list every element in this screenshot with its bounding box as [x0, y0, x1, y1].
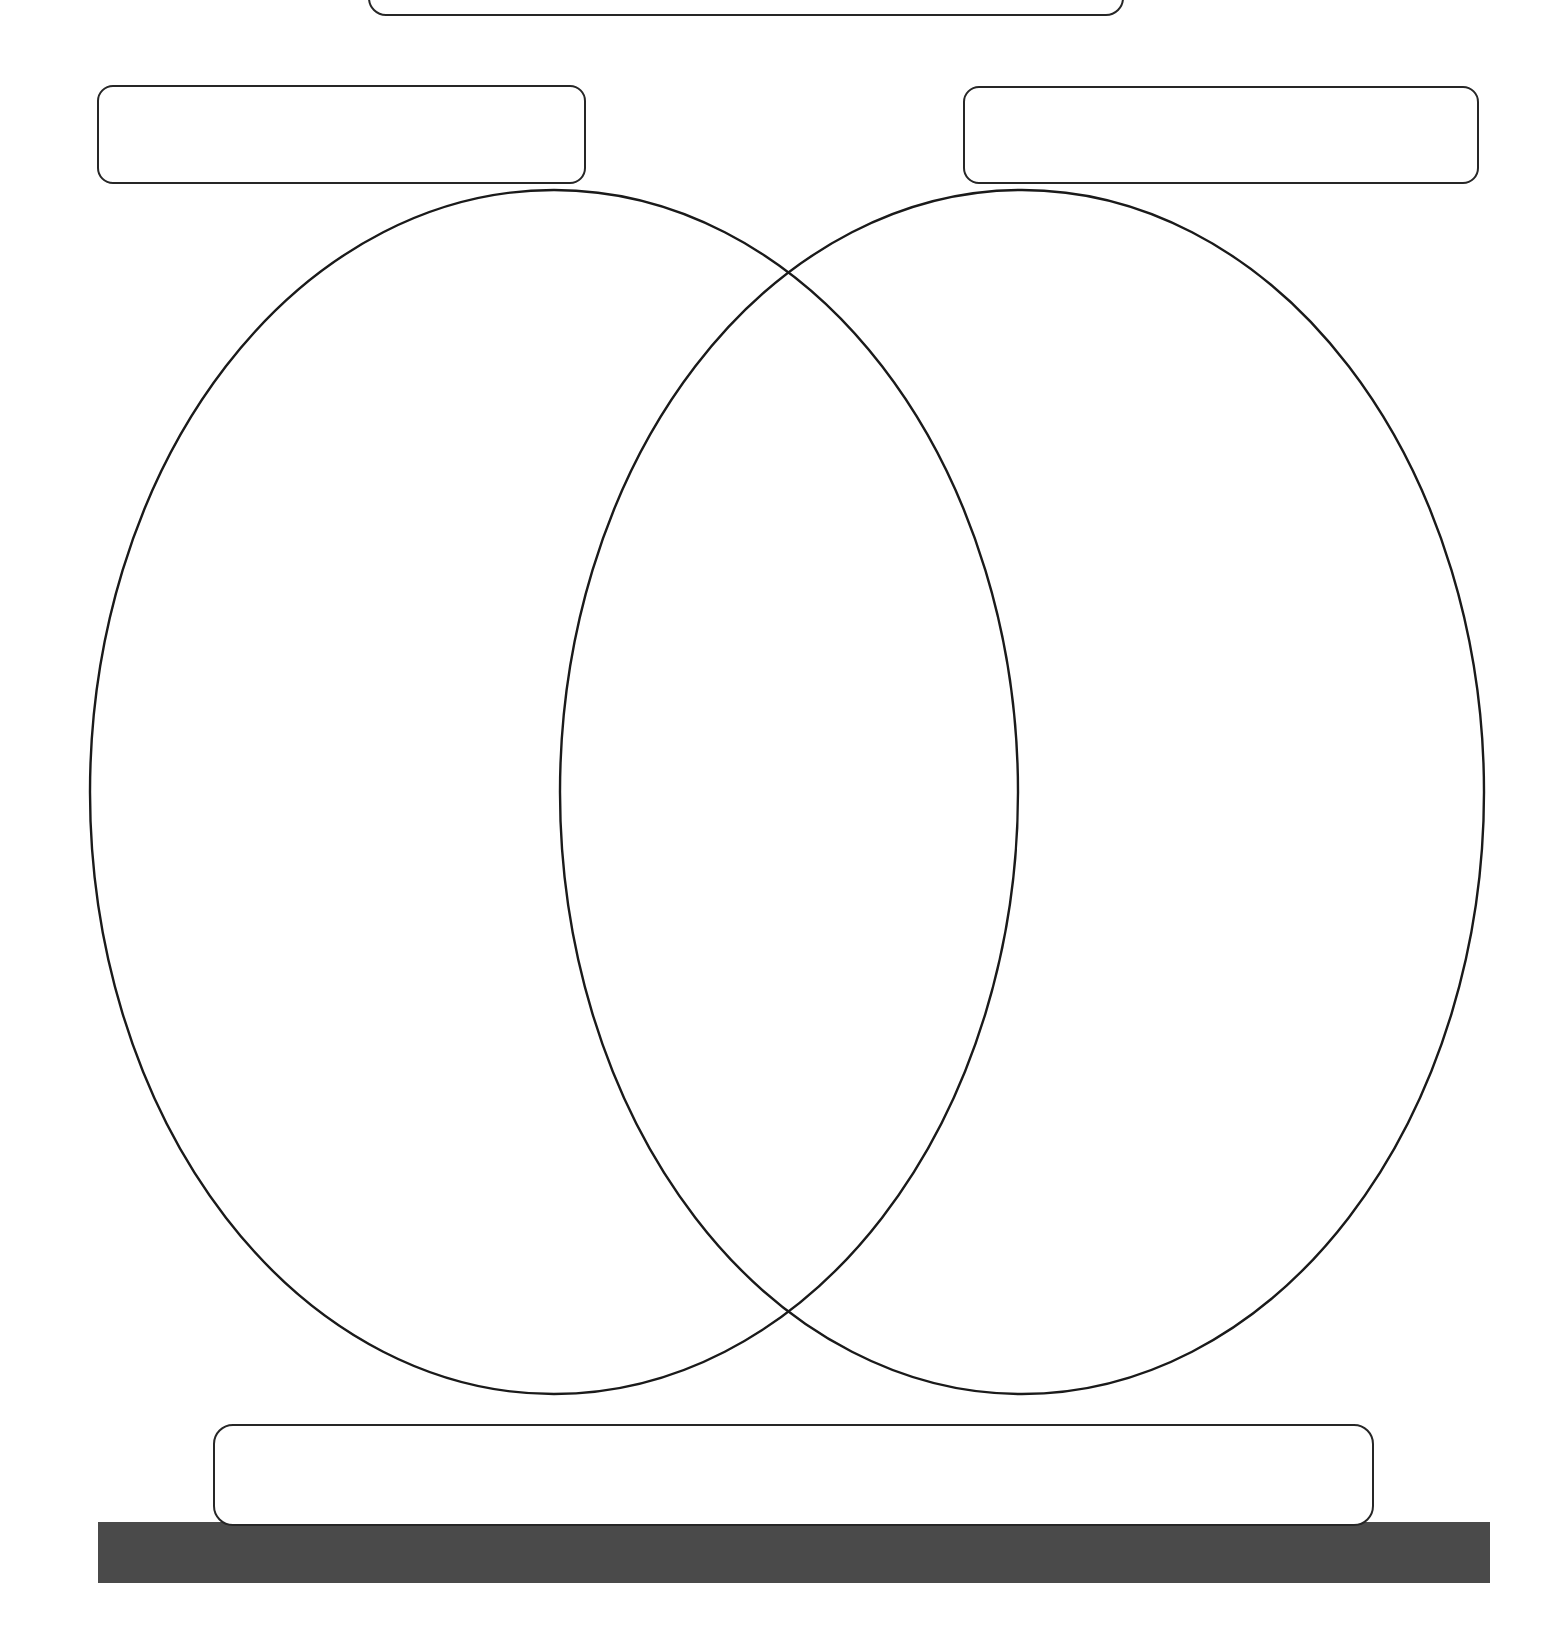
venn-region-overlap[interactable]: [600, 430, 970, 1150]
left-set-label-box[interactable]: [97, 85, 586, 184]
venn-region-left-only[interactable]: [150, 430, 510, 1150]
venn-diagram-worksheet: [0, 0, 1544, 1633]
footer-caption-box[interactable]: [213, 1424, 1374, 1526]
venn-region-right-only[interactable]: [1070, 430, 1420, 1150]
footer-accent-bar: [98, 1522, 1490, 1583]
title-box[interactable]: [368, 0, 1124, 16]
right-set-label-box[interactable]: [963, 86, 1479, 184]
